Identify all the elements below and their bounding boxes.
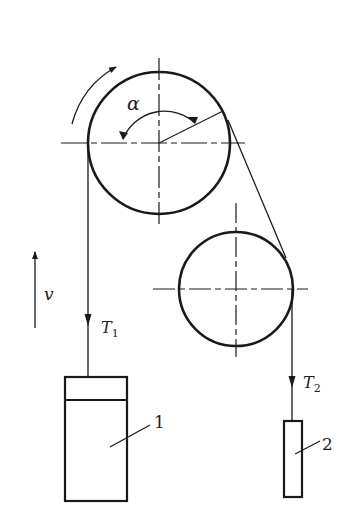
- body-2-box: [284, 421, 302, 497]
- pulley-diagram: α T1 T2 v 1 2: [0, 0, 360, 528]
- body-1-label: 1: [154, 412, 165, 432]
- tension-2-label: T2: [303, 373, 321, 395]
- tension-1-arrowhead-icon: [85, 314, 92, 326]
- wrap-angle-arrowhead-right-icon: [188, 117, 198, 124]
- body-2-label: 2: [322, 434, 333, 454]
- tension-1-label: T1: [101, 318, 119, 340]
- radius-line: [159, 111, 223, 143]
- body-1-leader-line: [110, 425, 150, 447]
- body-1: 1: [65, 377, 165, 501]
- velocity-label: v: [44, 284, 54, 304]
- angle-label: α: [127, 92, 140, 114]
- body-1-box: [65, 377, 127, 501]
- body-2-leader-line: [295, 441, 320, 454]
- tension-2-arrowhead-icon: [289, 376, 296, 388]
- small-pulley: [153, 203, 308, 357]
- body-2: 2: [284, 421, 333, 497]
